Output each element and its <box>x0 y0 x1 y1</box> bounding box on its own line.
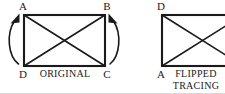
figure-container: A B C D ORIGINAL D A FLIPPED TRACING <box>0 0 225 94</box>
original-vertex-label-d: D <box>19 68 27 80</box>
flipped-rectangle <box>162 15 225 66</box>
figure-svg: A B C D ORIGINAL D A FLIPPED TRACING <box>0 0 225 94</box>
panel-flipped-tracing: D A FLIPPED TRACING <box>157 0 225 91</box>
original-caption: ORIGINAL <box>40 68 91 79</box>
flipped-vertex-label-a: A <box>157 68 165 80</box>
flipped-caption-line-2: TRACING <box>173 80 220 91</box>
flipped-diagonal-d-c <box>162 15 225 66</box>
flipped-caption-line-1: FLIPPED <box>175 68 217 79</box>
flipped-vertex-label-d: D <box>157 0 165 12</box>
flipped-diagonal-b-a <box>162 15 225 66</box>
panel-original: A B C D ORIGINAL <box>9 0 119 80</box>
left-rotation-arrow-head <box>11 14 20 24</box>
left-rotation-arrow-arc <box>9 21 18 64</box>
original-vertex-label-a: A <box>19 0 27 12</box>
original-vertex-label-c: C <box>103 68 110 80</box>
right-rotation-arrow-arc <box>110 21 119 64</box>
original-vertex-label-b: B <box>103 0 110 12</box>
right-rotation-arrow-head <box>109 14 118 24</box>
